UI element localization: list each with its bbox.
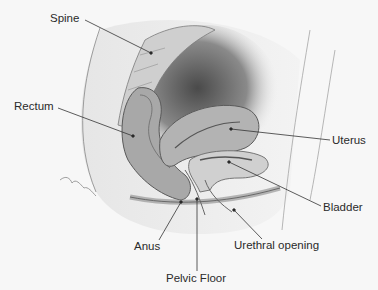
label-pelvic-floor: Pelvic Floor: [166, 273, 226, 285]
label-uterus: Uterus: [332, 135, 366, 147]
pelvic-anatomy-illustration: [0, 0, 378, 290]
label-bladder: Bladder: [323, 202, 363, 214]
label-anus: Anus: [134, 241, 160, 253]
label-spine: Spine: [50, 13, 79, 25]
label-urethral-opening: Urethral opening: [234, 240, 319, 252]
artist-signature: [60, 177, 96, 196]
label-rectum: Rectum: [14, 101, 54, 113]
